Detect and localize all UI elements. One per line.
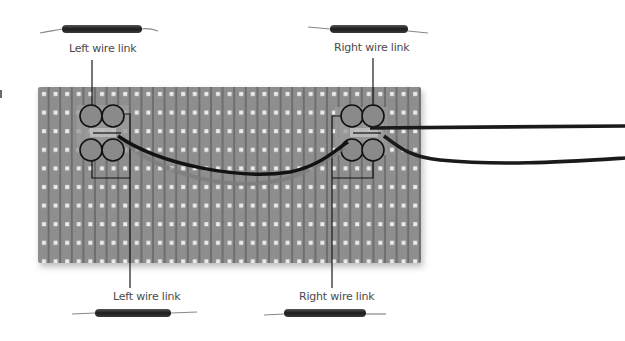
stripboard-diagram: Left wire link Right wire link Left wire…: [0, 0, 625, 341]
wire-link-top-right: [308, 25, 428, 33]
label-left-wire-link-bottom: Left wire link: [113, 290, 180, 303]
label-right-wire-link-bottom: Right wire link: [299, 290, 375, 303]
wire-link-top-left: [40, 25, 158, 33]
wire-link-bottom-right: [264, 309, 386, 317]
label-left-wire-link-top: Left wire link: [69, 42, 136, 55]
label-right-wire-link-top: Right wire link: [334, 41, 410, 54]
wire-link-bottom-left: [72, 309, 197, 317]
